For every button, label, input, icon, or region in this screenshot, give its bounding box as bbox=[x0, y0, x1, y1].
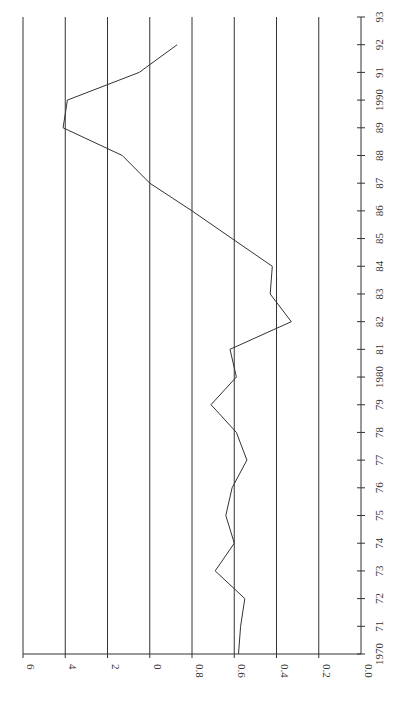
x-tick-label: 71 bbox=[373, 621, 385, 632]
x-tick-label: 83 bbox=[373, 288, 385, 300]
x-tick-label: 88 bbox=[373, 149, 385, 161]
x-tick-label: 81 bbox=[373, 344, 385, 355]
x-tick-label: 73 bbox=[373, 565, 385, 577]
chart-canvas: 0.00.20.40.60.80246 19707172737475767778… bbox=[0, 0, 404, 709]
y-axis-tick-labels: 0.00.20.40.60.80246 bbox=[25, 664, 375, 678]
x-tick-label: 77 bbox=[373, 454, 385, 466]
x-tick-label: 82 bbox=[373, 316, 385, 327]
x-tick-label: 91 bbox=[373, 67, 385, 78]
x-tick-label: 89 bbox=[373, 122, 385, 134]
y-tick-label: 2 bbox=[110, 664, 122, 670]
y-tick-label: 0.8 bbox=[194, 664, 206, 678]
x-tick-label: 78 bbox=[373, 426, 385, 438]
x-tick-label: 1990 bbox=[373, 89, 385, 112]
x-tick-label: 84 bbox=[373, 260, 385, 272]
rotated-line-chart: 0.00.20.40.60.80246 19707172737475767778… bbox=[0, 0, 404, 709]
x-tick-label: 1970 bbox=[373, 643, 385, 666]
x-tick-label: 1980 bbox=[373, 366, 385, 389]
y-tick-label: 6 bbox=[25, 664, 37, 670]
x-tick-label: 87 bbox=[373, 177, 385, 189]
x-tick-label: 85 bbox=[373, 233, 385, 245]
x-axis bbox=[357, 17, 365, 654]
x-tick-label: 79 bbox=[373, 399, 385, 411]
y-tick-label: 0.0 bbox=[363, 664, 375, 678]
y-tick-label: 0 bbox=[152, 664, 164, 670]
x-tick-label: 74 bbox=[373, 537, 385, 549]
y-tick-label: 0.4 bbox=[279, 664, 291, 678]
gridlines bbox=[23, 17, 361, 658]
x-tick-label: 93 bbox=[373, 11, 385, 23]
data-line bbox=[63, 45, 291, 654]
x-tick-label: 72 bbox=[373, 593, 385, 604]
y-tick-label: 0.2 bbox=[321, 664, 333, 678]
x-tick-label: 92 bbox=[373, 39, 385, 50]
y-tick-label: 4 bbox=[67, 664, 79, 670]
x-tick-label: 75 bbox=[373, 510, 385, 522]
y-tick-label: 0.6 bbox=[236, 664, 248, 678]
x-tick-label: 86 bbox=[373, 205, 385, 217]
x-tick-label: 76 bbox=[373, 482, 385, 494]
x-axis-tick-labels: 1970717273747576777879198081828384858687… bbox=[373, 11, 385, 665]
